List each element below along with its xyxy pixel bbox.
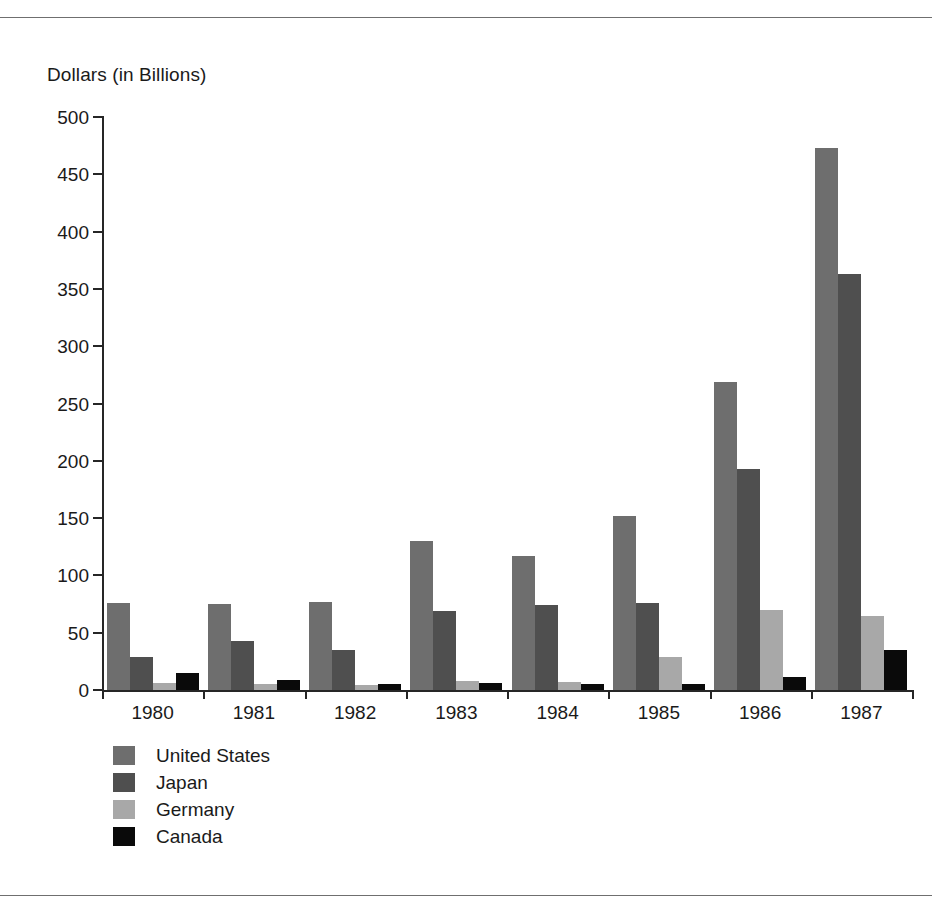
- bar-group: [613, 117, 705, 690]
- y-tick-mark: [93, 288, 104, 290]
- y-tick-label: 250: [57, 394, 89, 413]
- x-tick-mark: [406, 690, 408, 699]
- bar: [309, 602, 332, 690]
- bar: [479, 683, 502, 690]
- y-tick-mark: [93, 116, 104, 118]
- y-tick-mark: [93, 403, 104, 405]
- bar: [815, 148, 838, 690]
- y-tick-label: 400: [57, 222, 89, 241]
- bar: [581, 684, 604, 690]
- bar: [512, 556, 535, 690]
- bar: [760, 610, 783, 690]
- y-tick-mark: [93, 632, 104, 634]
- bar-group-bars: [815, 117, 907, 690]
- x-tick-label: 1983: [406, 703, 507, 722]
- y-tick-label: 300: [57, 337, 89, 356]
- y-tick-label: 0: [78, 681, 89, 700]
- bar: [456, 681, 479, 690]
- bar-group: [208, 117, 300, 690]
- legend-swatch: [113, 773, 135, 792]
- bar: [378, 684, 401, 690]
- bar: [737, 469, 760, 690]
- y-tick-label: 50: [68, 623, 89, 642]
- bar-chart-figure: Dollars (in Billions) 500450400350300250…: [0, 0, 932, 923]
- x-tick-label: 1982: [305, 703, 406, 722]
- x-tick-mark: [203, 690, 205, 699]
- bar: [861, 616, 884, 690]
- y-tick-label: 100: [57, 566, 89, 585]
- bar: [884, 650, 907, 690]
- legend-item: Canada: [113, 823, 270, 850]
- bar: [659, 657, 682, 690]
- legend-label: Japan: [156, 773, 208, 792]
- y-tick-mark: [93, 574, 104, 576]
- y-tick-mark: [93, 517, 104, 519]
- legend-label: United States: [156, 746, 270, 765]
- bottom-rule: [0, 895, 932, 896]
- x-tick-mark: [811, 690, 813, 699]
- bar: [208, 604, 231, 690]
- y-tick-label: 150: [57, 509, 89, 528]
- bar: [231, 641, 254, 690]
- bar: [355, 685, 378, 690]
- legend-swatch: [113, 827, 135, 846]
- bar: [636, 603, 659, 690]
- x-tick-mark: [912, 690, 914, 699]
- bar: [130, 657, 153, 690]
- bar: [433, 611, 456, 690]
- y-tick-mark: [93, 173, 104, 175]
- bar-group-bars: [714, 117, 806, 690]
- bar: [410, 541, 433, 690]
- y-tick-mark: [93, 345, 104, 347]
- y-axis-title: Dollars (in Billions): [47, 64, 206, 86]
- x-tick-label: 1981: [203, 703, 304, 722]
- chart-legend: United StatesJapanGermanyCanada: [113, 742, 270, 850]
- bar-group: [815, 117, 907, 690]
- x-tick-label: 1980: [102, 703, 203, 722]
- bar: [783, 677, 806, 690]
- bar-group-bars: [410, 117, 502, 690]
- x-tick-label: 1984: [507, 703, 608, 722]
- bar-group: [309, 117, 401, 690]
- legend-label: Germany: [156, 800, 234, 819]
- bar: [682, 684, 705, 690]
- bar: [153, 683, 176, 690]
- y-tick-label: 450: [57, 165, 89, 184]
- plot-area: 500450400350300250200150100500 198019811…: [102, 117, 912, 690]
- x-tick-mark: [102, 690, 104, 699]
- bar: [558, 682, 581, 690]
- x-tick-mark: [305, 690, 307, 699]
- y-tick-label: 200: [57, 451, 89, 470]
- y-tick-mark: [93, 231, 104, 233]
- bar-group: [512, 117, 604, 690]
- x-tick-label: 1985: [608, 703, 709, 722]
- x-tick-mark: [507, 690, 509, 699]
- bar: [714, 382, 737, 690]
- bar-group-bars: [208, 117, 300, 690]
- bar: [107, 603, 130, 690]
- top-rule: [0, 17, 932, 18]
- legend-item: Germany: [113, 796, 270, 823]
- bar-group: [107, 117, 199, 690]
- legend-swatch: [113, 800, 135, 819]
- bar: [535, 605, 558, 690]
- bar: [277, 680, 300, 690]
- legend-item: United States: [113, 742, 270, 769]
- x-tick-label: 1987: [811, 703, 912, 722]
- bar-group: [410, 117, 502, 690]
- bar: [176, 673, 199, 690]
- x-tick-label: 1986: [710, 703, 811, 722]
- bar-group-bars: [613, 117, 705, 690]
- x-tick-mark: [608, 690, 610, 699]
- y-tick-label: 500: [57, 108, 89, 127]
- legend-item: Japan: [113, 769, 270, 796]
- bar-group-bars: [512, 117, 604, 690]
- y-tick-mark: [93, 460, 104, 462]
- bar: [254, 684, 277, 690]
- y-tick-label: 350: [57, 279, 89, 298]
- bar: [838, 274, 861, 690]
- bar: [332, 650, 355, 690]
- x-tick-mark: [710, 690, 712, 699]
- bar-group: [714, 117, 806, 690]
- bar-group-bars: [309, 117, 401, 690]
